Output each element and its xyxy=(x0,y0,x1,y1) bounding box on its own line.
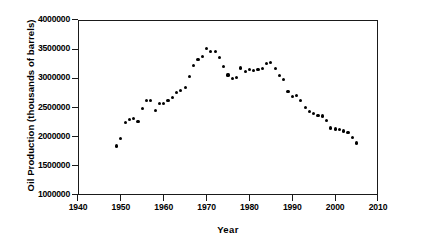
x-tick-mark xyxy=(163,195,164,201)
x-tick-mark xyxy=(292,195,293,201)
x-tick-label: 1970 xyxy=(187,202,227,212)
x-axis-title: Year xyxy=(78,224,378,235)
x-tick-label: 1940 xyxy=(58,202,98,212)
x-tick-mark xyxy=(77,195,78,201)
x-tick-mark xyxy=(335,195,336,201)
x-tick-label: 1960 xyxy=(144,202,184,212)
x-tick-mark xyxy=(249,195,250,201)
y-tick-label: 2500000 xyxy=(2,102,70,112)
x-tick-mark xyxy=(120,195,121,201)
x-tick-mark xyxy=(377,195,378,201)
y-tick-label: 3500000 xyxy=(2,43,70,53)
y-tick-label: 2000000 xyxy=(2,131,70,141)
x-tick-mark xyxy=(206,195,207,201)
x-tick-label: 1950 xyxy=(101,202,141,212)
chart-figure: Oil Production (thousands of barrels) Ye… xyxy=(0,0,423,245)
x-tick-label: 1990 xyxy=(272,202,312,212)
x-tick-label: 2000 xyxy=(315,202,355,212)
y-tick-label: 1500000 xyxy=(2,160,70,170)
y-tick-label: 1000000 xyxy=(2,189,70,199)
y-tick-label: 4000000 xyxy=(2,14,70,24)
x-tick-label: 2010 xyxy=(358,202,398,212)
y-tick-label: 3000000 xyxy=(2,72,70,82)
plot-area xyxy=(78,20,378,195)
x-tick-label: 1980 xyxy=(229,202,269,212)
